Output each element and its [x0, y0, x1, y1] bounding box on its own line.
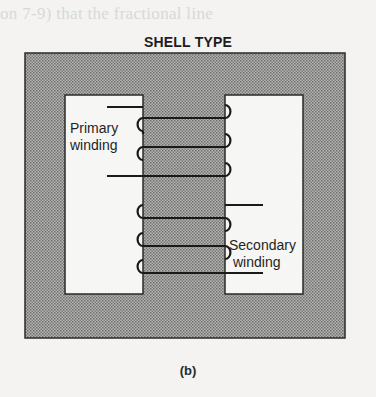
- shell-type-transformer-diagram: [0, 0, 376, 397]
- primary-label-line1: Primary: [70, 120, 118, 137]
- primary-winding-label: Primary winding: [70, 120, 118, 154]
- secondary-label-line2: winding: [229, 254, 296, 271]
- primary-label-line2: winding: [70, 137, 118, 154]
- secondary-label-line1: Secondary: [229, 237, 296, 254]
- secondary-winding-label: Secondary winding: [229, 237, 296, 271]
- iron-core: [25, 53, 345, 338]
- figure-caption: (b): [0, 363, 376, 378]
